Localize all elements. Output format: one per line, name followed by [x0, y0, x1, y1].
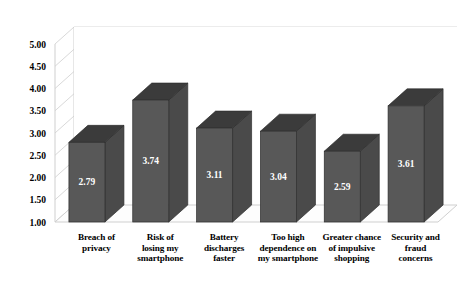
y-tick-label-4.50: 4.50	[29, 62, 46, 72]
y-tick-label-1.50: 1.50	[29, 195, 46, 205]
bar-1	[69, 125, 124, 222]
y-tick-label-2.50: 2.50	[29, 151, 46, 161]
bar-4	[260, 114, 315, 222]
y-tick-label-5.00: 5.00	[29, 40, 46, 50]
x-axis-label-line: concerns	[376, 253, 456, 264]
bar-value-label-6: 3.61	[398, 159, 415, 169]
x-axis-label-6: Security andfraudconcerns	[376, 232, 456, 264]
bar-value-label-2: 3.74	[142, 156, 159, 166]
y-tick-label-3.00: 3.00	[29, 129, 46, 139]
y-tick-label-4.00: 4.00	[29, 84, 46, 94]
y-axis-tick-labels: 5.004.504.003.503.002.502.001.501.00	[29, 40, 46, 228]
y-tick-label-1.00: 1.00	[29, 218, 46, 228]
bar-6	[388, 89, 443, 222]
bar-3	[197, 111, 252, 222]
y-tick-label-2.00: 2.00	[29, 173, 46, 183]
bar-2	[133, 83, 188, 222]
x-axis-label-line: Security and	[376, 232, 456, 243]
bar-value-label-1: 2.79	[79, 177, 96, 187]
bar-value-label-3: 3.11	[207, 170, 223, 180]
x-axis-label-line: fraud	[376, 243, 456, 254]
bar-5	[324, 134, 379, 222]
bar-chart: 5.004.504.003.503.002.502.001.501.00 2.7…	[0, 0, 457, 283]
bar-value-label-5: 2.59	[334, 182, 351, 192]
bar-value-label-4: 3.04	[270, 172, 287, 182]
y-tick-label-3.50: 3.50	[29, 106, 46, 116]
